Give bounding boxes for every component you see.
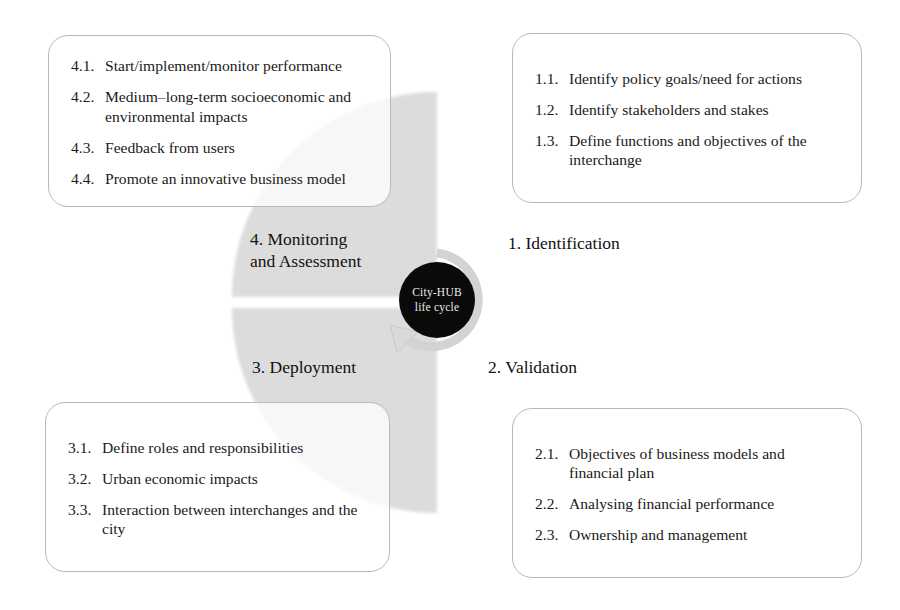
item-text: Define roles and responsibilities xyxy=(102,438,367,457)
item-number: 4.3. xyxy=(71,138,105,157)
hub-title-line1: City-HUB xyxy=(412,285,462,300)
list-item: 2.1. Objectives of business models and f… xyxy=(535,444,839,482)
item-number: 2.1. xyxy=(535,444,569,463)
stage-label-deployment: 3. Deployment xyxy=(252,356,356,378)
list-item: 4.3. Feedback from users xyxy=(71,138,368,157)
item-text: Feedback from users xyxy=(105,138,368,157)
item-number: 4.1. xyxy=(71,56,105,75)
stage-label-identification: 1. Identification xyxy=(508,232,620,254)
list-item: 3.2. Urban economic impacts xyxy=(68,469,367,488)
list-item: 4.4. Promote an innovative business mode… xyxy=(71,169,368,188)
list-item: 4.2. Medium–long-term socioeconomic and … xyxy=(71,87,368,125)
item-number: 4.2. xyxy=(71,87,105,106)
stage-label-monitoring-and-assessment: 4. Monitoring and Assessment xyxy=(250,228,361,273)
list-item: 4.1. Start/implement/monitor performance xyxy=(71,56,368,75)
list-item: 2.2. Analysing financial performance xyxy=(535,494,839,513)
item-number: 3.2. xyxy=(68,469,102,488)
item-text: Define functions and objectives of the i… xyxy=(569,131,839,169)
card-identification[interactable]: 1.1. Identify policy goals/need for acti… xyxy=(512,33,862,203)
item-text: Identify stakeholders and stakes xyxy=(569,100,839,119)
list-item: 1.1. Identify policy goals/need for acti… xyxy=(535,69,839,88)
hub-title-line2: life cycle xyxy=(415,300,459,315)
list-item: 1.2. Identify stakeholders and stakes xyxy=(535,100,839,119)
item-text: Identify policy goals/need for actions xyxy=(569,69,839,88)
list-item: 3.1. Define roles and responsibilities xyxy=(68,438,367,457)
item-number: 1.3. xyxy=(535,131,569,150)
card-deployment[interactable]: 3.1. Define roles and responsibilities 3… xyxy=(45,402,390,572)
list-item: 1.3. Define functions and objectives of … xyxy=(535,131,839,169)
item-number: 1.1. xyxy=(535,69,569,88)
item-text: Medium–long-term socioeconomic and envir… xyxy=(105,87,368,125)
item-number: 2.3. xyxy=(535,525,569,544)
item-number: 1.2. xyxy=(535,100,569,119)
diagram-canvas: 4.1. Start/implement/monitor performance… xyxy=(0,0,900,610)
item-text: Ownership and management xyxy=(569,525,839,544)
item-number: 2.2. xyxy=(535,494,569,513)
hub-circle[interactable]: City-HUB life cycle xyxy=(399,262,475,338)
card-validation[interactable]: 2.1. Objectives of business models and f… xyxy=(512,408,862,578)
item-text: Promote an innovative business model xyxy=(105,169,368,188)
item-text: Urban economic impacts xyxy=(102,469,367,488)
card-monitoring-and-assessment[interactable]: 4.1. Start/implement/monitor performance… xyxy=(48,35,391,207)
list-item: 2.3. Ownership and management xyxy=(535,525,839,544)
stage-label-validation: 2. Validation xyxy=(488,356,577,378)
item-number: 4.4. xyxy=(71,169,105,188)
item-text: Start/implement/monitor performance xyxy=(105,56,368,75)
item-number: 3.3. xyxy=(68,500,102,519)
item-text: Objectives of business models and financ… xyxy=(569,444,839,482)
list-item: 3.3. Interaction between interchanges an… xyxy=(68,500,367,538)
item-number: 3.1. xyxy=(68,438,102,457)
item-text: Analysing financial performance xyxy=(569,494,839,513)
item-text: Interaction between interchanges and the… xyxy=(102,500,367,538)
